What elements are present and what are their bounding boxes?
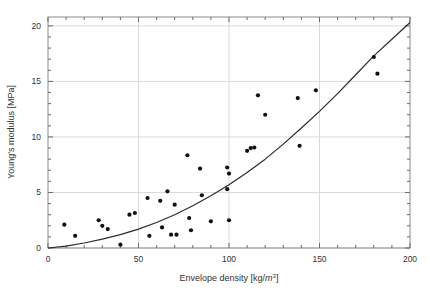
data-point-marker: [209, 219, 213, 223]
y-axis-title-text: Young's modulus [MPa]: [6, 85, 16, 179]
y-axis-title: Young's modulus [MPa]: [6, 85, 16, 179]
data-point-marker: [133, 211, 137, 215]
data-point-marker: [249, 146, 253, 150]
data-point-marker: [314, 88, 318, 92]
data-point-marker: [173, 203, 177, 207]
x-tick-label: 200: [403, 254, 417, 264]
y-tick-label: 10: [32, 132, 42, 142]
data-point-marker: [127, 213, 131, 217]
chart-figure: 050100150200 05101520 Envelope density […: [0, 0, 430, 294]
scatter-plot: 050100150200 05101520 Envelope density […: [0, 0, 430, 294]
figure-background: [0, 0, 430, 294]
data-point-marker: [297, 144, 301, 148]
y-tick-label: 20: [32, 21, 42, 31]
x-tick-label: 100: [222, 254, 236, 264]
data-point-marker: [225, 165, 229, 169]
y-tick-label: 5: [36, 187, 41, 197]
x-axis-title: Envelope density [kg/m3]: [180, 273, 279, 283]
data-point-marker: [187, 216, 191, 220]
x-tick-label: 150: [312, 254, 326, 264]
data-point-marker: [375, 72, 379, 76]
data-point-marker: [169, 233, 173, 237]
data-point-marker: [256, 93, 260, 97]
data-point-marker: [147, 234, 151, 238]
data-point-marker: [62, 223, 66, 227]
data-point-marker: [97, 218, 101, 222]
x-axis-title-text: Envelope density [kg/m3]: [180, 273, 279, 283]
data-point-marker: [252, 145, 256, 149]
data-point-marker: [118, 243, 122, 247]
data-point-marker: [160, 225, 164, 229]
data-point-marker: [73, 234, 77, 238]
y-tick-label: 15: [32, 76, 42, 86]
data-point-marker: [165, 189, 169, 193]
data-point-marker: [372, 55, 376, 59]
data-point-marker: [198, 166, 202, 170]
data-point-marker: [145, 196, 149, 200]
data-point-marker: [296, 96, 300, 100]
data-point-marker: [263, 113, 267, 117]
data-point-marker: [189, 228, 193, 232]
data-point-marker: [245, 149, 249, 153]
y-tick-label: 0: [36, 243, 41, 253]
data-point-marker: [200, 193, 204, 197]
data-point-marker: [174, 233, 178, 237]
data-point-marker: [225, 187, 229, 191]
x-tick-label: 0: [46, 254, 51, 264]
data-point-marker: [227, 171, 231, 175]
data-point-marker: [227, 218, 231, 222]
x-tick-label: 50: [134, 254, 144, 264]
data-point-marker: [185, 153, 189, 157]
data-point-marker: [158, 199, 162, 203]
data-point-marker: [106, 227, 110, 231]
data-point-marker: [100, 224, 104, 228]
